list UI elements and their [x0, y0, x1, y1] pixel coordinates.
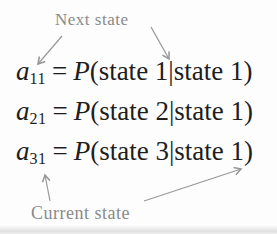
equation-a21: a21=P(state 2|state 1)	[16, 98, 253, 125]
coefficient-subscript: 31	[30, 150, 47, 167]
probability-symbol: P	[74, 96, 91, 126]
probability-symbol: P	[74, 136, 91, 166]
equation-a31: a31=P(state 3|state 1)	[16, 138, 253, 165]
coefficient-symbol: a	[16, 96, 30, 126]
equals-sign: =	[52, 56, 67, 86]
page-edge-shadow	[0, 225, 277, 234]
equals-sign: =	[53, 136, 68, 166]
coefficient-subscript: 21	[30, 110, 47, 127]
transition-probability-figure: Next state a11=P(state 1|state 1) a21=P(…	[0, 0, 277, 234]
next-state-arrow-to-condition-icon	[151, 27, 169, 59]
coefficient-subscript: 11	[30, 70, 46, 87]
probability-arguments: (state 2|state 1)	[90, 96, 253, 126]
current-state-arrow-to-subscript-icon	[45, 175, 50, 201]
current-state-label: Current state	[31, 203, 130, 224]
coefficient-symbol: a	[16, 56, 30, 86]
coefficient-symbol: a	[16, 136, 30, 166]
current-state-arrow-to-condition-icon	[144, 169, 241, 201]
equation-a11: a11=P(state 1|state 1)	[16, 58, 252, 85]
equals-sign: =	[53, 96, 68, 126]
probability-symbol: P	[73, 56, 90, 86]
next-state-label: Next state	[55, 10, 128, 30]
probability-arguments: (state 3|state 1)	[90, 136, 253, 166]
probability-arguments: (state 1|state 1)	[90, 56, 253, 86]
